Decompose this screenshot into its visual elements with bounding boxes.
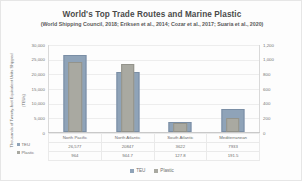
y-tick-label: 30,000	[32, 43, 45, 48]
teu-swatch-icon	[17, 143, 20, 146]
bar-group	[102, 45, 155, 132]
table-row-teu: 26,577 20847 3622 7933	[49, 143, 260, 152]
bar-groups	[49, 45, 259, 132]
plot-area: 30,000 25,000 20,000 15,000 10,000 5,000…	[48, 45, 260, 133]
table-cell: 127.8	[154, 152, 207, 161]
table-cell: 26,577	[49, 143, 102, 152]
y-axis-title: Thousands of Twenty-foot Equivalent Unit…	[9, 53, 14, 149]
chart-legend: TEU Plastic	[1, 168, 302, 173]
legend-label: TEU	[136, 168, 145, 173]
bar-group	[207, 45, 260, 132]
chart-title: World's Top Trade Routes and Marine Plas…	[25, 10, 279, 20]
y2-tick-label: 400	[263, 101, 270, 106]
bar-group	[49, 45, 102, 132]
teu-legend-swatch-icon	[130, 169, 134, 173]
y-axis-title-units: (TEUs)	[21, 53, 26, 149]
table-cell: 944.7	[101, 152, 154, 161]
table-cell: 964	[49, 152, 102, 161]
plastic-legend-swatch-icon	[154, 169, 158, 173]
chart-subtitle: (World Shipping Council, 2018; Eriksen e…	[25, 21, 279, 28]
table-cell: North Atlantic	[101, 134, 154, 143]
table-cell: Mediterranean	[207, 134, 260, 143]
table-row-label-teu: TEU	[17, 141, 30, 149]
table-cell: 7933	[207, 143, 260, 152]
bar-plastic[interactable]	[226, 118, 240, 132]
y-tick-label: 10,000	[32, 101, 45, 106]
y2-tick-label: 1,000	[263, 57, 274, 62]
legend-item-plastic[interactable]: Plastic	[154, 168, 174, 173]
table-cell: 3622	[154, 143, 207, 152]
table-cell: 20847	[101, 143, 154, 152]
y2-tick-label: 600	[263, 87, 270, 92]
table-row-label-plastic: Plastic	[17, 149, 34, 157]
chart-title-block: World's Top Trade Routes and Marine Plas…	[25, 10, 279, 28]
bar-plastic[interactable]	[121, 64, 135, 132]
bar-plastic[interactable]	[68, 62, 82, 132]
plastic-swatch-icon	[17, 151, 20, 154]
table-row-plastic: 964 944.7 127.8 191.5	[49, 152, 260, 161]
bar-plastic[interactable]	[173, 123, 187, 132]
y2-tick-label: 0	[263, 131, 265, 136]
data-table: North Pacific North Atlantic South Atlan…	[48, 133, 260, 161]
table-cell: North Pacific	[49, 134, 102, 143]
table-cell: 191.5	[207, 152, 260, 161]
legend-item-teu[interactable]: TEU	[130, 168, 145, 173]
bar-group	[154, 45, 207, 132]
legend-label: Plastic	[160, 168, 174, 173]
y-tick-label: 5,000	[34, 116, 45, 121]
y-tick-label: 25,000	[32, 57, 45, 62]
y2-axis-line	[259, 45, 260, 133]
plastic-row-label: Plastic	[22, 150, 35, 155]
chart-container: World's Top Trade Routes and Marine Plas…	[0, 0, 302, 181]
y-tick-label: 0	[43, 131, 45, 136]
teu-row-label: TEU	[22, 142, 31, 147]
y-tick-label: 20,000	[32, 72, 45, 77]
y-tick-label: 15,000	[32, 87, 45, 92]
y2-tick-label: 800	[263, 72, 270, 77]
y2-tick-label: 1,200	[263, 43, 274, 48]
table-cell: South Atlantic	[154, 134, 207, 143]
y2-tick-label: 200	[263, 116, 270, 121]
table-row-categories: North Pacific North Atlantic South Atlan…	[49, 134, 260, 143]
